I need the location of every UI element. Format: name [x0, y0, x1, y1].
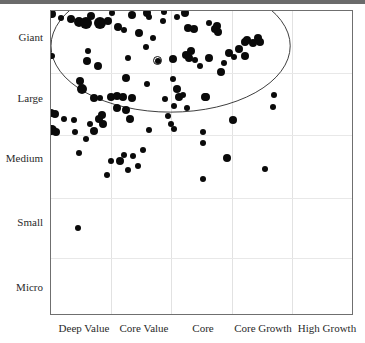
data-point[interactable]	[121, 27, 127, 33]
style-box-scatter-chart: Giant Large Medium Small Micro Deep Valu…	[0, 0, 365, 343]
data-point[interactable]	[170, 76, 176, 82]
data-point[interactable]	[146, 14, 152, 20]
data-point[interactable]	[122, 74, 130, 82]
plot-area	[50, 10, 353, 315]
data-point[interactable]	[87, 121, 93, 127]
data-point[interactable]	[231, 54, 237, 60]
y-axis-label-small: Small	[0, 216, 43, 228]
data-point[interactable]	[77, 84, 87, 94]
data-point[interactable]	[256, 38, 264, 46]
y-axis-label-giant: Giant	[0, 31, 43, 43]
data-point[interactable]	[150, 35, 156, 41]
data-point[interactable]	[98, 111, 106, 119]
data-point[interactable]	[99, 120, 107, 128]
data-point[interactable]	[235, 45, 243, 53]
data-point[interactable]	[125, 55, 131, 61]
data-point[interactable]	[229, 116, 237, 124]
data-point[interactable]	[119, 93, 127, 101]
data-point[interactable]	[200, 140, 206, 146]
data-point[interactable]	[223, 154, 231, 162]
data-point[interactable]	[200, 129, 206, 135]
x-axis-label-high-growth: High Growth	[292, 322, 362, 335]
data-point[interactable]	[205, 54, 213, 62]
data-point[interactable]	[83, 57, 91, 65]
data-point[interactable]	[241, 52, 249, 60]
data-point[interactable]	[197, 63, 203, 69]
data-point[interactable]	[171, 126, 177, 132]
data-point[interactable]	[116, 157, 124, 165]
y-axis-label-large: Large	[0, 92, 43, 104]
data-point[interactable]	[271, 92, 277, 98]
data-point[interactable]	[71, 117, 77, 123]
x-axis-label-core: Core	[172, 322, 234, 335]
data-point[interactable]	[270, 104, 276, 110]
data-point[interactable]	[52, 128, 60, 136]
data-point[interactable]	[125, 167, 131, 173]
data-point[interactable]	[76, 150, 82, 156]
y-axis-label-micro: Micro	[0, 281, 43, 293]
holdings-concentration-ellipse	[51, 11, 352, 314]
data-point[interactable]	[61, 116, 67, 122]
x-axis-label-core-growth: Core Growth	[228, 322, 298, 335]
data-point[interactable]	[262, 166, 268, 172]
data-point[interactable]	[173, 85, 181, 93]
data-point[interactable]	[87, 12, 95, 20]
data-point[interactable]	[51, 110, 59, 118]
data-point[interactable]	[140, 147, 146, 153]
data-point[interactable]	[94, 62, 102, 70]
data-point[interactable]	[128, 94, 136, 102]
data-point[interactable]	[97, 95, 103, 101]
data-point[interactable]	[72, 129, 78, 135]
x-axis-label-core-value: Core Value	[112, 322, 176, 335]
data-point[interactable]	[104, 172, 110, 178]
data-point[interactable]	[190, 25, 198, 33]
data-point[interactable]	[171, 103, 177, 109]
data-point[interactable]	[217, 68, 225, 76]
data-point[interactable]	[184, 105, 190, 111]
data-point[interactable]	[160, 18, 166, 24]
y-axis-label-medium: Medium	[0, 152, 43, 164]
data-point[interactable]	[75, 225, 81, 231]
x-axis-label-deep-value: Deep Value	[52, 322, 116, 335]
data-point[interactable]	[214, 28, 222, 36]
data-point[interactable]	[104, 17, 112, 25]
data-point[interactable]	[206, 20, 212, 26]
portfolio-centroid-marker[interactable]	[153, 56, 162, 65]
data-point[interactable]	[187, 47, 195, 55]
